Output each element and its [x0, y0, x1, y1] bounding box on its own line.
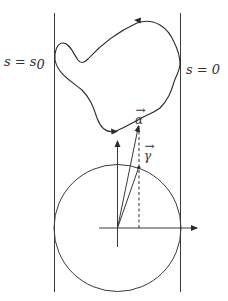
diagram-canvas: s = s0 s = 0 α → γ → [0, 0, 228, 301]
left-boundary-label: s = s0 [4, 54, 45, 72]
right-boundary-label: s = 0 [186, 62, 220, 77]
alpha-arrow-accent: → [136, 103, 146, 117]
closed-curve [55, 21, 180, 131]
curve-direction-arrow-bottom [111, 129, 118, 135]
gamma-arrow-accent: → [145, 139, 155, 153]
